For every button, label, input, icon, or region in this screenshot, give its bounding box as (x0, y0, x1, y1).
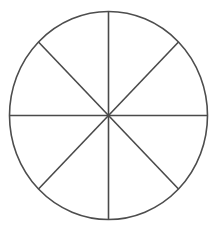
circle-eighths-diagram (0, 0, 217, 228)
figure-canvas: sector-1 sector-2 sector-3 sector-4 sect… (0, 0, 217, 228)
